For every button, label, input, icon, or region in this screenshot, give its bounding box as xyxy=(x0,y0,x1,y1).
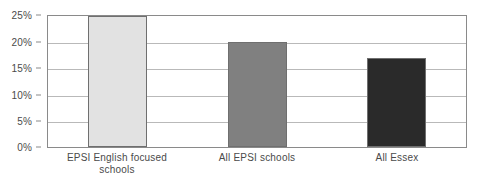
y-tick-label-25: 25% xyxy=(11,10,32,21)
bar-all-essex[interactable] xyxy=(367,58,426,147)
x-axis: EPSI English focused schools All EPSI sc… xyxy=(47,152,467,192)
x-category-label-1-line1: All EPSI schools xyxy=(219,152,296,163)
y-tick-mark-20 xyxy=(36,41,41,42)
y-axis: 25% 20% 15% 10% 5% 0% xyxy=(0,15,41,148)
bar-epsi-english-focused-schools[interactable] xyxy=(88,16,147,147)
y-tick-mark-25 xyxy=(36,15,41,16)
x-category-label-0: EPSI English focused schools xyxy=(47,152,187,176)
x-category-label-0-line1: EPSI English focused xyxy=(67,152,167,163)
y-tick-label-0: 0% xyxy=(17,142,32,153)
y-tick-mark-0 xyxy=(36,147,41,148)
bar-all-epsi-schools[interactable] xyxy=(228,42,287,147)
y-tick-label-5: 5% xyxy=(17,116,32,127)
x-category-label-1: All EPSI schools xyxy=(187,152,327,164)
bar-chart: 25% 20% 15% 10% 5% 0% EPSI English focus… xyxy=(0,0,482,192)
x-category-label-0-line2: schools xyxy=(99,164,134,175)
y-tick-label-15: 15% xyxy=(11,63,32,74)
x-category-label-2: All Essex xyxy=(327,152,467,164)
x-category-label-2-line1: All Essex xyxy=(376,152,419,163)
y-tick-mark-15 xyxy=(36,68,41,69)
plot-area xyxy=(47,15,467,148)
y-tick-mark-5 xyxy=(36,121,41,122)
y-tick-label-10: 10% xyxy=(11,89,32,100)
y-tick-label-20: 20% xyxy=(11,36,32,47)
y-tick-mark-10 xyxy=(36,94,41,95)
